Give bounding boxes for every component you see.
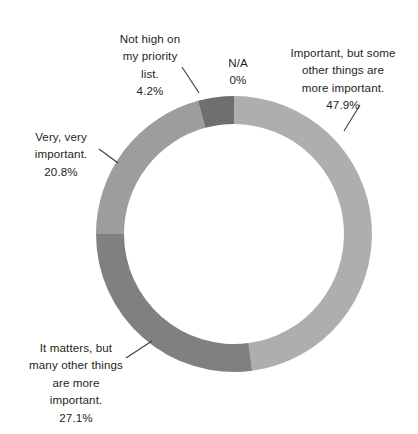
slice-label-it-matters-but-many-other-things: It matters, but many other things are mo… [8,321,144,434]
slice-label-na: N/A 0% [196,36,280,106]
donut-chart: Important, but some other things are mor… [0,0,418,434]
slice-label-text: Important, but some other things are mor… [290,46,395,94]
slice-label-very-very-important: Very, very important. 20.8% [6,110,116,198]
slice-label-text: It matters, but many other things are mo… [29,341,123,407]
slice-label-percent: 20.8% [6,163,116,181]
slice-label-percent: 0% [196,71,280,89]
slice-label-text: N/A [228,56,248,69]
donut-slice[interactable]: Important, but some other things are mor… [234,96,372,371]
slice-label-text: Very, very important. [35,130,88,161]
slice-label-important-but-some-other-things: Important, but some other things are mor… [276,26,410,132]
slice-label-percent: 27.1% [8,409,144,427]
slice-label-percent: 47.9% [276,96,410,114]
slice-label-not-high-on-priority-list: Not high on my priority list. 4.2% [96,12,204,118]
slice-label-text: Not high on my priority list. [120,32,180,80]
slice-label-percent: 4.2% [96,82,204,100]
